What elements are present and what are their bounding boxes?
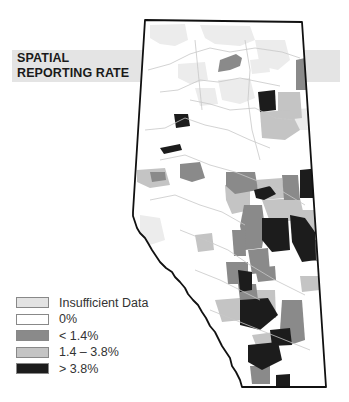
legend-swatch bbox=[16, 363, 49, 374]
legend-label: 1.4 – 3.8% bbox=[59, 345, 119, 359]
legend-item-mid: 1.4 – 3.8% bbox=[16, 345, 148, 360]
legend-item-high: > 3.8% bbox=[16, 361, 148, 376]
legend-swatch bbox=[16, 314, 49, 325]
legend-item-low: < 1.4% bbox=[16, 328, 148, 343]
legend-item-zero: 0% bbox=[16, 312, 148, 327]
title-line-2: REPORTING RATE bbox=[17, 66, 129, 81]
legend-label: < 1.4% bbox=[59, 329, 98, 343]
legend-swatch bbox=[16, 347, 49, 358]
legend-swatch bbox=[16, 297, 49, 308]
legend-item-insufficient: Insufficient Data bbox=[16, 295, 148, 310]
legend-label: > 3.8% bbox=[59, 362, 98, 376]
legend-swatch bbox=[16, 330, 49, 341]
title-line-1: SPATIAL bbox=[17, 51, 129, 66]
legend: Insufficient Data 0% < 1.4% 1.4 – 3.8% >… bbox=[16, 295, 148, 378]
legend-label: 0% bbox=[59, 312, 77, 326]
legend-label: Insufficient Data bbox=[59, 296, 148, 310]
map-title: SPATIAL REPORTING RATE bbox=[17, 51, 129, 81]
